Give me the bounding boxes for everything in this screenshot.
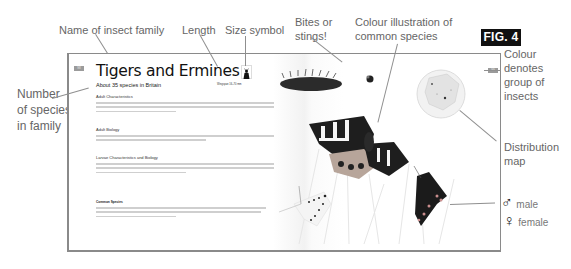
callout-line: Distribution bbox=[504, 140, 559, 154]
common-species-heading: Common Species bbox=[96, 200, 276, 204]
callout-line: Colour bbox=[504, 47, 544, 61]
callout-colour-group: Colour denotes group of insects bbox=[504, 47, 544, 103]
species-illustrations bbox=[269, 54, 501, 251]
leader-colour-group bbox=[484, 70, 501, 71]
section-heading: Adult Biology bbox=[96, 127, 276, 132]
figure-badge: FIG. 4 bbox=[481, 29, 521, 46]
legend-male: ♂ male bbox=[501, 196, 538, 212]
text-line bbox=[96, 216, 176, 218]
callout-line: group of bbox=[504, 75, 544, 89]
white-ermine-illustration bbox=[279, 186, 331, 226]
text-line bbox=[96, 163, 274, 165]
size-symbol bbox=[241, 65, 252, 79]
callout-line: map bbox=[504, 154, 559, 168]
callout-line: common species bbox=[355, 29, 452, 43]
section-common-species: Common Species bbox=[96, 200, 276, 220]
callout-family-name: Name of insect family bbox=[59, 23, 164, 37]
callout-line: in family bbox=[17, 118, 71, 134]
text-line bbox=[96, 139, 206, 141]
legend-female-label: female bbox=[518, 217, 548, 228]
text-line bbox=[96, 172, 186, 174]
section-heading: Larvae Characteristics and Biology bbox=[96, 155, 276, 160]
text-line bbox=[96, 111, 176, 113]
garden-tiger-moth-illustration bbox=[309, 116, 409, 179]
section-larvae: Larvae Characteristics and Biology bbox=[96, 155, 276, 176]
text-line bbox=[96, 167, 274, 169]
dark-tiger-moth-illustration bbox=[414, 166, 447, 226]
text-line bbox=[96, 211, 261, 213]
text-line bbox=[96, 102, 274, 104]
section-heading: Adult Characteristics bbox=[96, 94, 276, 99]
wingspan-length: Wingspan 16–70 mm bbox=[217, 83, 242, 86]
text-line bbox=[96, 207, 266, 209]
callout-line: Bites or bbox=[295, 15, 332, 29]
species-count: About 35 species in Britain bbox=[96, 82, 161, 88]
callout-species-count: Number of species in family bbox=[17, 86, 71, 134]
section-adult-biology: Adult Biology bbox=[96, 127, 276, 144]
distribution-map bbox=[417, 70, 465, 118]
callout-line: denotes bbox=[504, 61, 544, 75]
caterpillar-illustration bbox=[280, 69, 342, 91]
callout-line: Colour illustration of bbox=[355, 15, 452, 29]
book-spread: 98 99 Tigers and Ermines About 35 specie… bbox=[67, 53, 501, 252]
family-title: Tigers and Ermines bbox=[96, 62, 239, 80]
leader-size-symbol bbox=[245, 36, 246, 66]
text-line bbox=[96, 106, 274, 108]
callout-line: of species bbox=[17, 102, 71, 118]
callout-line: insects bbox=[504, 89, 544, 103]
female-symbol-icon: ♀ bbox=[503, 212, 515, 229]
callout-distribution-map: Distribution map bbox=[504, 140, 559, 168]
legend-female: ♀ female bbox=[503, 214, 548, 230]
group-colour-tab-left: 98 bbox=[74, 66, 84, 71]
leader-family-name bbox=[95, 34, 108, 54]
text-line bbox=[96, 135, 274, 137]
male-symbol-icon: ♂ bbox=[501, 194, 513, 211]
moth-silhouette-icon bbox=[242, 68, 251, 80]
callout-size-symbol: Size symbol bbox=[225, 23, 284, 37]
section-adult-characteristics: Adult Characteristics bbox=[96, 94, 276, 115]
callout-colour-illustration: Colour illustration of common species bbox=[355, 15, 452, 43]
bites-stings-icon bbox=[367, 76, 374, 83]
legend-male-label: male bbox=[516, 199, 538, 210]
